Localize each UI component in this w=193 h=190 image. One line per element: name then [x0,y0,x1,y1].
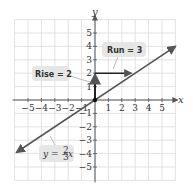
x-tick-label: −2 [62,103,75,113]
y-tick-label: 1 [86,82,92,92]
rise-label: Rise = 2 [35,70,72,79]
y-axis-label: y [91,6,98,17]
y-tick-label: 3 [86,55,92,65]
x-tick-label: 2 [119,103,125,113]
x-tick-label: −3 [48,103,62,113]
x-tick-label: −4 [35,103,49,113]
x-tick-label: −5 [21,103,35,113]
equation-lhs: y = [42,149,59,159]
y-tick-label: −4 [79,149,93,159]
equation-variable: x [68,149,73,159]
x-tick-label: 1 [106,103,112,113]
y-tick-label: −3 [79,135,93,145]
origin-point [93,98,97,102]
run-label: Run = 3 [107,46,142,55]
y-tick-label: −5 [79,162,93,172]
x-tick-label: 3 [132,103,138,113]
x-axis-label: x [178,94,184,105]
x-tick-label: 5 [159,103,165,113]
y-tick-label: 4 [86,41,92,51]
x-tick-label: 4 [146,103,152,113]
chart: −5−4−3−2−112345−5−4−3−2−112345 x y Run =… [0,0,193,190]
y-tick-label: −2 [79,122,92,132]
y-tick-label: 2 [86,68,92,78]
y-tick-label: 5 [86,28,92,38]
